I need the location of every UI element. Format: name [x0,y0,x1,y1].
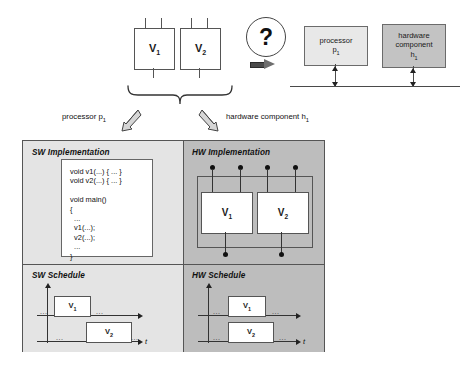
v2-pin-top-left [191,18,192,28]
vertex-v1: V1 [134,28,175,70]
code-line: v1(...); [70,223,152,232]
hw-block-v2: V2 [257,192,309,234]
hw-schedule-track1-ellipsis-left: ... [213,334,221,341]
sw-schedule-track1-ellipsis-right: ... [131,334,139,341]
hw-port-wire [240,169,241,193]
hardware-component-box: hardware component h1 [382,24,446,68]
processor-box-line1: processor [320,36,353,45]
v1-pin-top-right [161,18,162,28]
hardware-annotation-label: hardware component h1 [226,112,309,123]
hw-box-line2: component [395,40,432,49]
processor-connector-arrow-up [332,66,338,71]
processor-annotation-text: processor p [62,112,103,121]
code-line: void v2(...) { ... } [70,176,152,185]
code-line: ... [70,214,152,223]
hw-schedule-y-axis-arrow [206,283,212,288]
quadrant-sw-schedule: SW Schedule ... V1 ... ... V2 ... t [23,265,184,352]
code-line: { [70,205,152,214]
v2-pin-bottom [199,68,200,78]
v1-pin-bottom [153,68,154,78]
v2-pin-top-right [207,18,208,28]
system-bus-line [290,86,460,87]
hw-schedule-track0-ellipsis-left: ... [213,308,221,315]
hw-schedule-track0-arrow [296,313,301,319]
sw-task-v1-sub: 1 [73,306,76,312]
sw-schedule-track0-ellipsis-left: ... [40,308,48,315]
hw-port-wire [295,169,296,193]
hw-out-dot [223,252,228,257]
hw-block-v2-label: V [278,207,285,218]
code-line: v2(...); [70,233,152,242]
hw-task-v2-sub: 2 [252,332,255,338]
code-line: void v1(...) { ... } [70,167,152,176]
partitioning-panel: SW Implementation void v1(...) { ... } v… [22,140,325,352]
processor-box-sub: 1 [337,50,340,56]
hw-box-line1: hardware [398,31,429,40]
vertex-v2: V2 [180,28,221,70]
sw-task-v2: V2 [86,322,132,343]
processor-pointer-arrow-icon [118,108,142,134]
sw-schedule-track1-arrow [138,339,143,345]
code-line: ... [70,242,152,251]
processor-box: processor p1 [304,26,368,66]
processor-annotation-label: processor p1 [62,112,106,123]
hw-port-wire [212,169,213,193]
quadrant-sw-implementation: SW Implementation void v1(...) { ... } v… [23,141,184,265]
code-line: } [70,252,152,261]
vertex-v1-sub: 1 [156,49,160,56]
hw-schedule-track0-ellipsis-right: ... [272,308,280,315]
quadrant-hw-implementation: HW Implementation V1 V2 [184,141,324,265]
hw-block-v1-sub: 1 [229,213,233,220]
hw-schedule-time-label: t [303,337,305,346]
hw-task-v2: V2 [228,322,274,343]
hw-block-v1-label: V [222,207,229,218]
transform-arrow-head [264,59,275,69]
hw-box-sub: 1 [415,54,418,60]
hw-block-v2-sub: 2 [285,213,289,220]
hardware-pointer-arrow-icon [198,108,222,134]
grouping-brace [125,84,235,106]
sw-task-v1: V1 [54,296,91,317]
hw-task-v1: V1 [228,296,266,317]
hw-schedule-track1-arrow [296,339,301,345]
hw-port-wire [267,169,268,193]
processor-annotation-sub: 1 [103,117,106,123]
question-mark-glyph: ? [259,24,273,51]
code-line [70,186,152,195]
sw-schedule-track1-ellipsis-left: ... [56,334,64,341]
hw-out-wire [281,232,282,254]
hw-out-dot [279,252,284,257]
hw-task-v1-sub: 1 [248,306,251,312]
sw-schedule-track0-ellipsis-right: ... [96,308,104,315]
quadrant-hw-schedule: HW Schedule ... V1 ... ... V2 ... t [184,265,324,352]
code-line: void main() [70,195,152,204]
sw-schedule-time-label: t [145,337,147,346]
sw-task-v2-sub: 2 [110,332,113,338]
hw-schedule-title: HW Schedule [192,271,245,280]
hardware-annotation-text: hardware component h [226,112,306,121]
hw-implementation-title: HW Implementation [192,148,270,157]
hw-block-v1: V1 [201,192,253,234]
hw-schedule-track1-ellipsis-right: ... [279,334,287,341]
sw-schedule-track0-arrow [138,313,143,319]
transform-arrow-icon [250,59,276,70]
sw-schedule-y-axis-arrow [45,283,51,288]
question-mark-icon: ? [246,17,286,57]
sw-implementation-title: SW Implementation [32,148,110,157]
code-block: void v1(...) { ... } void v2(...) { ... … [61,159,153,257]
hardware-connector-arrow-up [410,68,416,73]
v1-pin-top-left [145,18,146,28]
hw-out-wire [225,232,226,254]
sw-schedule-title: SW Schedule [32,271,85,280]
vertex-v2-sub: 2 [202,49,206,56]
hardware-annotation-sub: 1 [306,117,309,123]
